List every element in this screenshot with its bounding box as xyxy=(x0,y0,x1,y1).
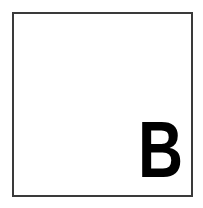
panel-label: B xyxy=(138,117,172,183)
panel-frame: B xyxy=(12,12,193,197)
